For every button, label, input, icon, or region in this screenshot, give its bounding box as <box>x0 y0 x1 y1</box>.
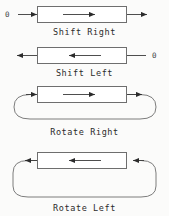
shift-right-caption: Shift Right <box>0 27 169 37</box>
shift-rotate-diagram: 0 0 Shift Right Shift Left Rotate Right … <box>0 0 169 216</box>
shift-right-group <box>18 7 147 23</box>
rotate-right-caption: Rotate Right <box>0 127 169 137</box>
shift-right-input-zero-label: 0 <box>5 10 10 19</box>
rotate-left-group <box>13 153 156 198</box>
shift-left-caption: Shift Left <box>0 68 169 78</box>
shift-left-group <box>17 48 146 64</box>
shift-left-input-zero-label: 0 <box>152 51 157 60</box>
rotate-left-caption: Rotate Left <box>0 203 169 213</box>
rotate-right-group <box>14 87 156 120</box>
